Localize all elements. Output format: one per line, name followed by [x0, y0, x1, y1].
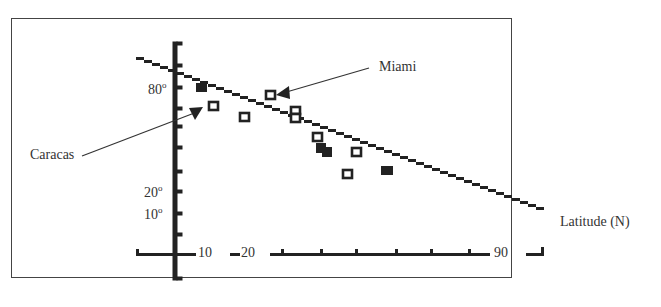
filled-markers [196, 83, 393, 175]
y-tick-10-value: 10 [144, 207, 158, 222]
filled-point [322, 147, 332, 157]
caracas-label: Caracas [30, 148, 74, 162]
x-tick-label-90: 90 [494, 246, 508, 260]
x-axis-title: Latitude (N) [560, 215, 630, 229]
open-point [352, 148, 361, 156]
y-axis [173, 42, 182, 280]
y-tick-label-20: 20o [144, 184, 163, 200]
open-point-miami [266, 91, 275, 99]
y-tick-80-value: 80 [148, 82, 162, 97]
open-point [313, 133, 322, 141]
degree-symbol: o [162, 80, 167, 90]
open-point [291, 114, 300, 122]
open-point [343, 170, 352, 178]
trend-line [136, 57, 544, 210]
filled-point [196, 83, 207, 92]
open-point [240, 113, 249, 121]
miami-arrow [276, 68, 369, 99]
x-tick-label-10: 10 [198, 246, 212, 260]
open-point-caracas [209, 102, 218, 110]
x-tick-label-20: 20 [241, 246, 255, 260]
y-tick-20-value: 20 [144, 185, 158, 200]
filled-point [381, 166, 393, 175]
y-tick-label-10: 10o [144, 206, 163, 222]
degree-symbol: o [158, 183, 163, 193]
degree-symbol: o [158, 205, 163, 215]
miami-label: Miami [379, 60, 416, 74]
caracas-arrow [82, 107, 203, 156]
y-tick-label-80: 80o [148, 81, 167, 97]
chart-plot [0, 0, 661, 307]
